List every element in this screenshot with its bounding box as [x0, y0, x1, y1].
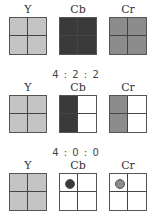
label-y-3: Y	[9, 160, 47, 172]
grid-cell	[10, 18, 28, 36]
grid-cr-2	[109, 95, 147, 133]
label-y-1: Y	[9, 4, 47, 16]
grid-cell	[28, 174, 46, 192]
grid-cell	[10, 192, 28, 210]
grid-cell	[10, 114, 28, 132]
grid-cell	[128, 114, 146, 132]
grid-cell	[78, 174, 96, 192]
grid-cell	[128, 192, 146, 210]
grid-cell	[110, 114, 128, 132]
grid-cell	[78, 114, 96, 132]
grid-cell	[110, 36, 128, 54]
label-cr-2: Cr	[109, 82, 147, 94]
grid-cell	[110, 18, 128, 36]
grid-cb-2	[59, 95, 97, 133]
grid-cr-1	[109, 17, 147, 55]
grid-cell	[128, 36, 146, 54]
grid-y-2	[9, 95, 47, 133]
grid-cell	[78, 36, 96, 54]
label-cb-2: Cb	[59, 82, 97, 94]
grid-cell	[10, 174, 28, 192]
grid-cell	[110, 192, 128, 210]
grid-cell	[78, 18, 96, 36]
grid-cell	[28, 192, 46, 210]
grid-cell	[128, 96, 146, 114]
grid-cell	[60, 174, 78, 192]
grid-cr-3	[109, 173, 147, 211]
grid-y-3	[9, 173, 47, 211]
grid-cell	[60, 114, 78, 132]
grid-cell	[60, 36, 78, 54]
grid-cell	[10, 36, 28, 54]
sample-dot-icon	[65, 179, 75, 189]
grid-cell	[128, 174, 146, 192]
grid-cell	[60, 192, 78, 210]
grid-cell	[10, 96, 28, 114]
label-cr-3: Cr	[109, 160, 147, 172]
grid-cell	[28, 96, 46, 114]
label-y-2: Y	[9, 82, 47, 94]
grid-cell	[28, 114, 46, 132]
grid-cell	[28, 18, 46, 36]
grid-cell	[28, 36, 46, 54]
grid-cb-3	[59, 173, 97, 211]
label-cb-3: Cb	[59, 160, 97, 172]
grid-cell	[60, 18, 78, 36]
grid-y-1	[9, 17, 47, 55]
grid-cell	[60, 96, 78, 114]
grid-cell	[110, 174, 128, 192]
ratio-422: 4 : 2 : 2	[0, 69, 152, 81]
grid-cell	[128, 18, 146, 36]
ratio-400: 4 : 0 : 0	[0, 147, 152, 159]
grid-cell	[78, 96, 96, 114]
grid-cb-1	[59, 17, 97, 55]
grid-cell	[110, 96, 128, 114]
label-cr-1: Cr	[109, 4, 147, 16]
label-cb-1: Cb	[59, 4, 97, 16]
grid-cell	[78, 192, 96, 210]
sample-dot-icon	[115, 179, 125, 189]
